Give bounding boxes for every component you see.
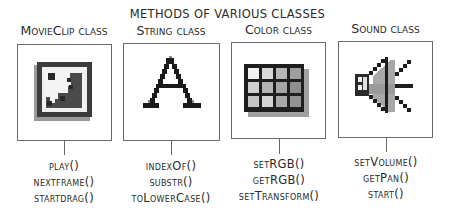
speaker-icon xyxy=(351,54,417,120)
method-item: setVolume() xyxy=(326,154,446,170)
method-item: startDrag() xyxy=(4,190,124,206)
sound-class-box xyxy=(338,41,433,138)
color-methods-list: setRGB() getRGB() setTransform() xyxy=(219,156,339,204)
movieclip-icon xyxy=(32,61,94,123)
method-item: nextFrame() xyxy=(4,174,124,190)
string-connector-line xyxy=(171,141,172,155)
method-item: getPan() xyxy=(326,170,446,186)
movieclip-methods-list: play() nextFrame() startDrag() xyxy=(4,158,124,206)
color-connector-line xyxy=(279,139,280,154)
method-item: indexOf() xyxy=(111,158,231,174)
diagram-title: Methods of various classes xyxy=(0,7,455,21)
letter-a-icon xyxy=(138,56,204,118)
method-item: substr() xyxy=(111,174,231,190)
sound-class-label: Sound class xyxy=(338,21,433,36)
color-class-box xyxy=(231,42,326,139)
method-item: toLowerCase() xyxy=(111,190,231,206)
movieclip-class-label: MovieClip class xyxy=(17,23,111,38)
color-class-label: Color class xyxy=(231,22,326,37)
color-grid-icon xyxy=(244,64,310,118)
method-item: play() xyxy=(4,158,124,174)
movieclip-class-box xyxy=(17,44,112,141)
string-class-box xyxy=(123,43,220,141)
method-item: getRGB() xyxy=(219,172,339,188)
method-item: start() xyxy=(326,186,446,202)
sound-methods-list: setVolume() getPan() start() xyxy=(326,154,446,202)
string-class-label: String class xyxy=(123,23,219,38)
sound-connector-line xyxy=(386,138,387,152)
movieclip-connector-line xyxy=(64,141,65,155)
method-item: setRGB() xyxy=(219,156,339,172)
string-methods-list: indexOf() substr() toLowerCase() xyxy=(111,158,231,206)
method-item: setTransform() xyxy=(219,188,339,204)
